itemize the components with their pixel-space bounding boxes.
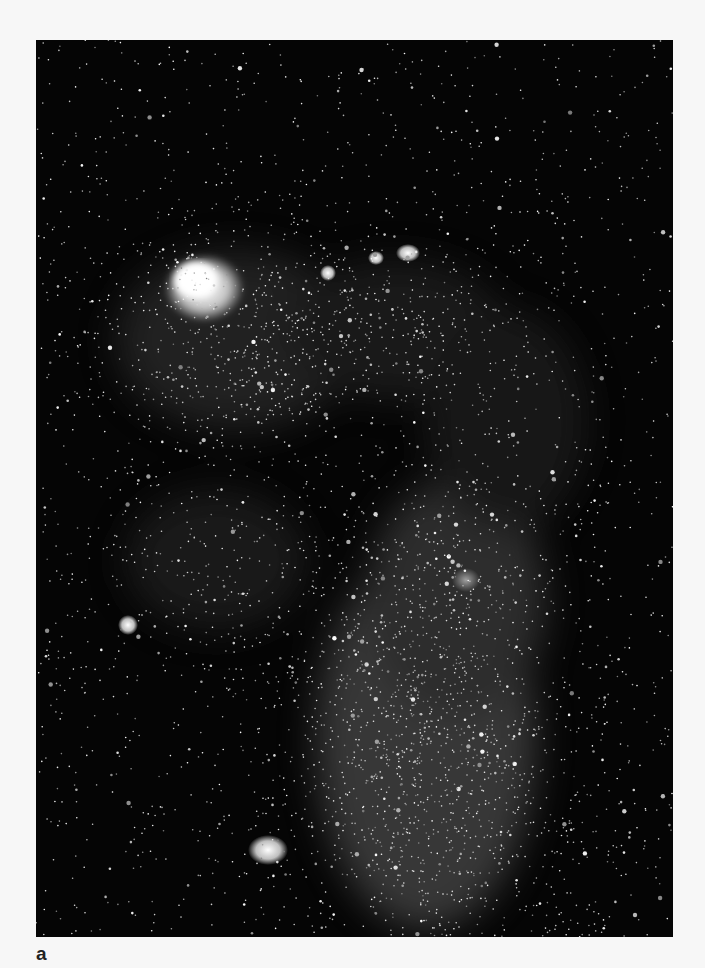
galaxy-photograph: [36, 40, 673, 937]
panel-label: a: [36, 944, 47, 963]
star-field: [36, 40, 673, 937]
